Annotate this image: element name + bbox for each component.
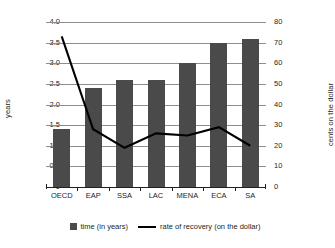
x-axis-label-eca: ECA <box>203 192 234 200</box>
x-axis-label-eap: EAP <box>77 192 108 200</box>
x-axis-label-sa: SA <box>235 192 266 200</box>
x-axis-tickmark <box>235 187 236 191</box>
chart-legend: time (in years) rate of recovery (on the… <box>0 222 330 231</box>
recovery-line-path <box>62 36 251 147</box>
axis-endcap-left <box>46 184 47 189</box>
y-axis-right-tick-50: 50 <box>274 80 300 88</box>
legend-label-rate-of-recovery: rate of recovery (on the dollar) <box>160 222 260 231</box>
x-axis-label-oecd: OECD <box>46 192 77 200</box>
x-axis-tickmark <box>172 187 173 191</box>
x-axis-label-lac: LAC <box>140 192 171 200</box>
x-axis-tickmark <box>77 187 78 191</box>
y-axis-right-tick-0: 0 <box>274 183 300 191</box>
y-axis-right-tick-30: 30 <box>274 121 300 129</box>
y-axis-right-tick-60: 60 <box>274 59 300 67</box>
legend-item-rate-of-recovery: rate of recovery (on the dollar) <box>138 222 260 231</box>
y-axis-right-tick-20: 20 <box>274 142 300 150</box>
y-axis-right-tick-70: 70 <box>274 39 300 47</box>
plot-area <box>46 22 266 187</box>
square-swatch-icon <box>70 223 77 230</box>
line-swatch-icon <box>138 226 156 228</box>
x-axis-label-mena: MENA <box>172 192 203 200</box>
gridline <box>46 187 266 188</box>
x-axis-tickmark <box>203 187 204 191</box>
y-axis-right-tick-10: 10 <box>274 162 300 170</box>
x-axis-tickmark <box>109 187 110 191</box>
x-axis-tickmark <box>140 187 141 191</box>
y-axis-left-title: years <box>3 89 12 129</box>
y-axis-right-tick-40: 40 <box>274 101 300 109</box>
legend-item-time: time (in years) <box>70 222 129 231</box>
legend-label-time: time (in years) <box>81 222 129 231</box>
x-axis-label-ssa: SSA <box>109 192 140 200</box>
y-axis-right-title: cents on the dollar <box>326 70 335 160</box>
line-series-rate-of-recovery <box>46 22 266 187</box>
y-axis-right-tick-80: 80 <box>274 18 300 26</box>
axis-endcap-right <box>265 184 266 189</box>
